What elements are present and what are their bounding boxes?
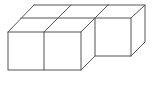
back-right-front-face bbox=[95, 18, 131, 56]
cube-diagram bbox=[0, 0, 157, 101]
cube-drawing bbox=[0, 0, 157, 101]
